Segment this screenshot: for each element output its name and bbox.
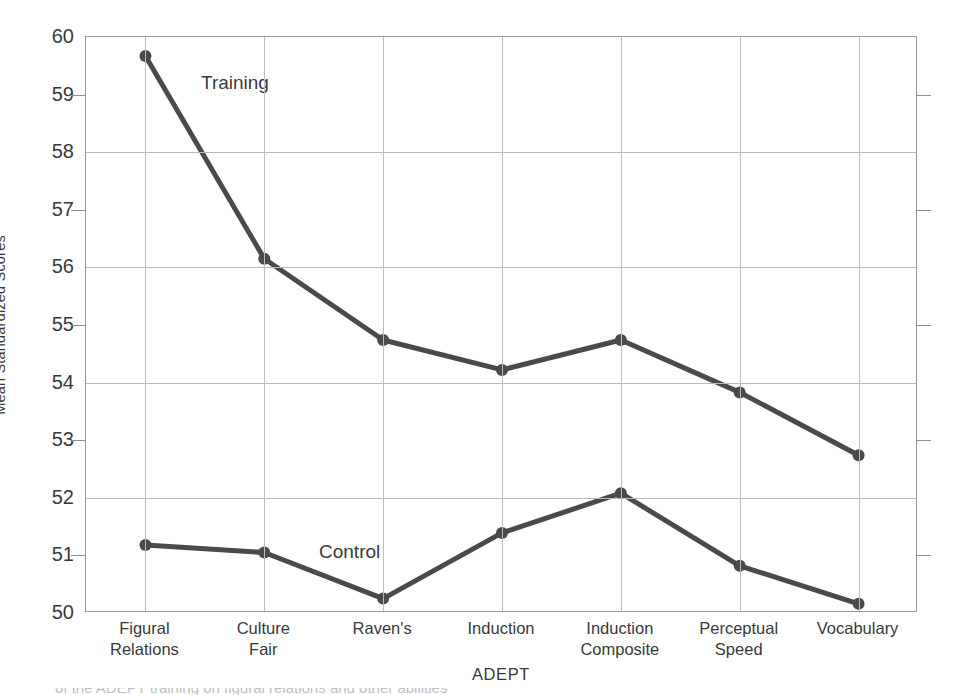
y-tick-label: 55 [30,314,74,334]
y-axis-tick-mark [71,95,86,96]
y-tick-label: 59 [30,84,74,104]
y-axis-title: Mean Standardized Scores [0,15,17,635]
y-tick-label: 50 [30,602,74,622]
clipped-caption-text: of the ADEPT training on figural relatio… [55,688,935,695]
vertical-gridline [383,37,384,611]
y-tick-label: 53 [30,429,74,449]
y-tick-label: 60 [30,26,74,46]
y-tick-label: 52 [30,487,74,507]
vertical-gridline [502,37,503,611]
horizontal-gridline [86,383,916,384]
y-axis-tick-mark [71,325,86,326]
y-axis-tick-mark [916,325,931,326]
vertical-gridline [145,37,146,611]
y-tick-label: 54 [30,372,74,392]
y-axis-tick-mark [916,555,931,556]
x-tick-label: Vocabulary [783,618,933,639]
y-axis-tick-mark [71,555,86,556]
y-axis-tick-mark [916,95,931,96]
horizontal-gridline [86,498,916,499]
y-axis-tick-mark [71,210,86,211]
series-label-control: Control [319,542,380,561]
y-tick-label: 51 [30,544,74,564]
x-axis-tick-labels: FiguralRelationsCultureFairRaven'sInduct… [85,618,917,670]
y-axis-tick-mark [71,440,86,441]
horizontal-gridline [86,152,916,153]
y-tick-label: 57 [30,199,74,219]
horizontal-gridline [86,267,916,268]
vertical-gridline [264,37,265,611]
y-axis-tick-mark [916,210,931,211]
vertical-gridline [621,37,622,611]
plot-area: Training Control [85,36,917,612]
chart-figure: Mean Standardized Scores 605958575655545… [0,0,971,695]
y-tick-label: 58 [30,141,74,161]
y-axis-tick-labels: 6059585756555453525150 [30,0,74,695]
y-tick-label: 56 [30,256,74,276]
clipped-caption: of the ADEPT training on figural relatio… [55,688,935,695]
y-axis-tick-mark [916,440,931,441]
vertical-gridline [859,37,860,611]
series-label-training: Training [201,73,269,92]
x-axis-title: ADEPT [85,665,917,684]
vertical-gridline [740,37,741,611]
